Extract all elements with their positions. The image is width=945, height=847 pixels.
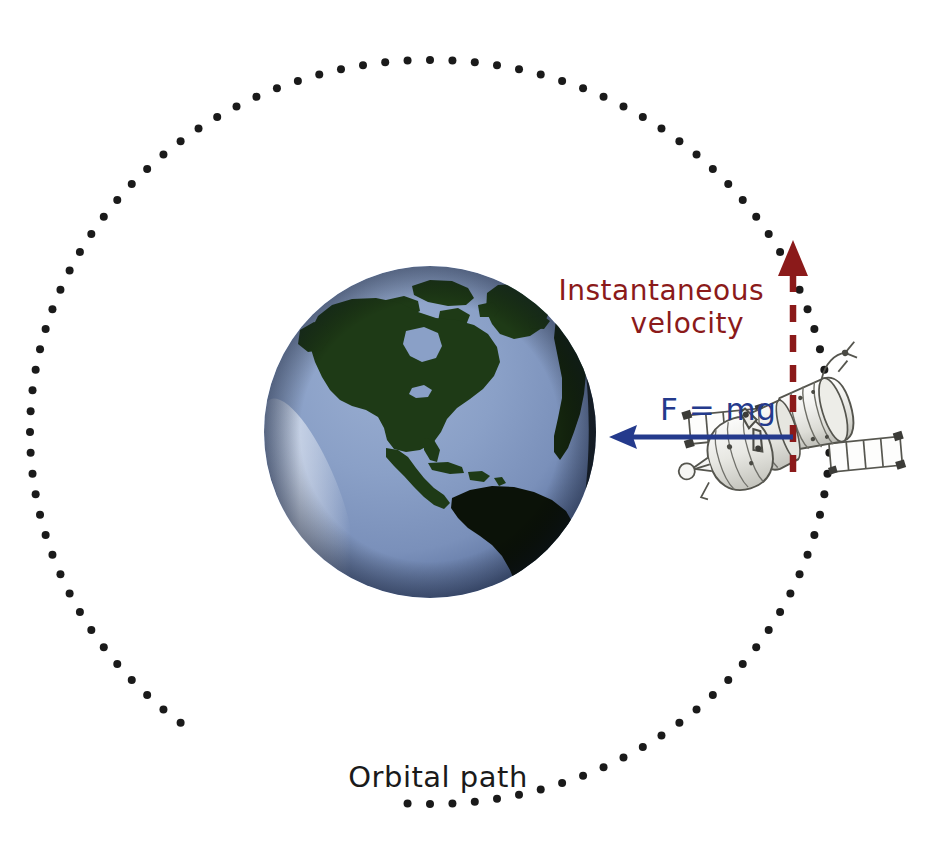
- text-labels-layer: Instantaneous velocity F = mg Orbital pa…: [0, 0, 945, 847]
- diagram-canvas: Instantaneous velocity F = mg Orbital pa…: [0, 0, 945, 847]
- velocity-label-line2: velocity: [631, 307, 744, 340]
- orbital-path-label: Orbital path: [348, 760, 528, 794]
- force-label: F = mg: [660, 391, 776, 427]
- velocity-label-line1: Instantaneous: [558, 274, 764, 307]
